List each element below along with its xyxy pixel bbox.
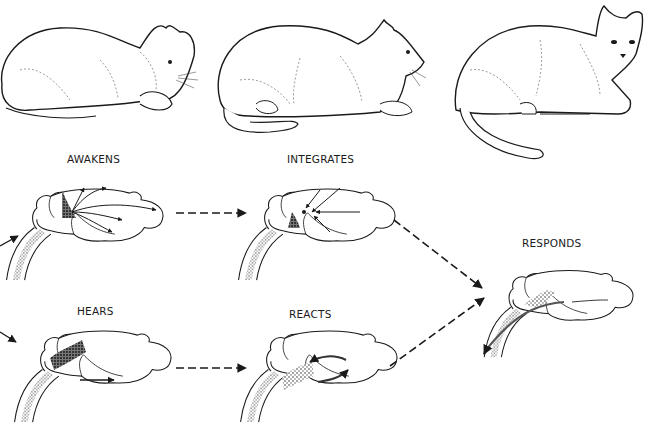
stage-label-responds: RESPONDS [522, 237, 581, 249]
brain-awakens [7, 189, 163, 280]
brain-integrates [239, 189, 395, 280]
integrates-to-responds-arrow [394, 220, 482, 288]
stage-label-awakens: AWAKENS [67, 153, 120, 165]
diagram-canvas [0, 0, 650, 432]
brain-reacts [241, 331, 397, 422]
input-arrow-awakens [0, 236, 18, 246]
cat-2-illustration [218, 20, 426, 132]
brain-responds [484, 271, 633, 358]
stage-label-hears: HEARS [77, 305, 114, 317]
reacts-to-responds-arrow [390, 298, 484, 366]
stage-label-integrates: INTEGRATES [287, 153, 354, 165]
cat-3-illustration [455, 6, 642, 159]
input-arrow-hears [0, 332, 16, 342]
stage-label-reacts: REACTS [289, 308, 332, 320]
cat-1-illustration [2, 26, 198, 118]
brain-hears [15, 331, 171, 422]
